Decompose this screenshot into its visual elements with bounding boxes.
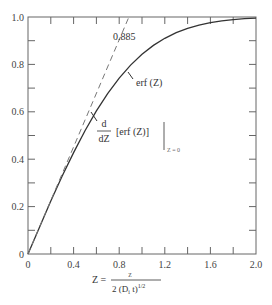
xlabel-denominator: 2 (Di t)1/2 xyxy=(112,283,145,295)
annotation-deriv-sub: Z = 0 xyxy=(167,147,180,153)
svg-text:1.2: 1.2 xyxy=(159,259,172,270)
erf-chart: 00.40.81.21.62.000.20.40.60.81.0 0.885 e… xyxy=(0,0,272,305)
annotation-0885: 0.885 xyxy=(113,31,136,42)
axis-tick-labels: 00.40.81.21.62.000.20.40.60.81.0 xyxy=(12,12,263,271)
erf-pointer xyxy=(128,72,133,79)
annotation-deriv-body: [erf (Z)] xyxy=(116,126,149,138)
svg-text:0: 0 xyxy=(26,259,31,270)
svg-text:0.4: 0.4 xyxy=(67,259,80,270)
svg-text:0.4: 0.4 xyxy=(12,154,25,165)
tangent-dashed-line xyxy=(28,17,129,254)
svg-text:0: 0 xyxy=(19,249,24,260)
svg-text:0.8: 0.8 xyxy=(113,259,126,270)
annotation-deriv-dz: dZ xyxy=(98,133,109,144)
svg-text:0.8: 0.8 xyxy=(12,59,25,70)
annotation-deriv-d: d xyxy=(102,118,107,129)
svg-text:1.6: 1.6 xyxy=(204,259,217,270)
svg-text:2.0: 2.0 xyxy=(250,259,263,270)
svg-text:1.0: 1.0 xyxy=(12,12,25,23)
annotation-erf: erf (Z) xyxy=(136,77,162,89)
svg-text:0.6: 0.6 xyxy=(12,106,25,117)
svg-text:0.2: 0.2 xyxy=(12,201,25,212)
xlabel-numerator: z xyxy=(128,270,132,279)
xlabel-lhs: Z = xyxy=(92,274,107,285)
